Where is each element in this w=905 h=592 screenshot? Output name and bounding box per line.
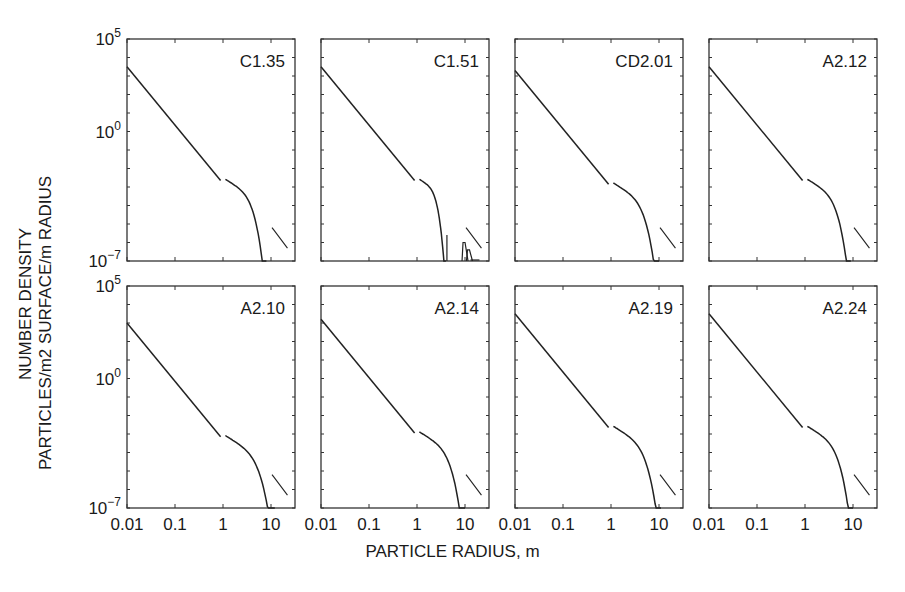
panel-frame [127, 286, 295, 508]
panel-a2-12: A2.12 [709, 39, 877, 261]
rolloff-curve [225, 436, 274, 509]
panel-label: A2.19 [629, 299, 673, 318]
small-multiples-plot: C1.3510510010−7C1.51CD2.01A2.12A2.101051… [0, 0, 905, 592]
figure: NUMBER DENSITY PARTICLES/m2 SURFACE/m RA… [0, 0, 905, 592]
x-tick-label: 0.1 [163, 515, 187, 534]
panel-frame [321, 286, 489, 508]
power-law-curve [709, 67, 803, 181]
panel-label: A2.14 [435, 299, 479, 318]
panel-c1-35: C1.3510510010−7 [88, 26, 295, 271]
power-law-curve [321, 67, 415, 181]
y-tick-label: 105 [95, 26, 121, 49]
power-law-curve [709, 314, 803, 428]
power-law-curve [127, 67, 221, 181]
panel-label: C1.35 [240, 52, 285, 71]
reference-line [272, 475, 287, 495]
rolloff-curve [419, 179, 446, 261]
panel-label: CD2.01 [615, 52, 673, 71]
reference-line [854, 475, 869, 495]
y-tick-label: 10−7 [88, 248, 121, 271]
x-tick-label: 1 [800, 515, 809, 534]
panel-label: C1.51 [434, 52, 479, 71]
panel-a2-14: A2.140.010.1110 [304, 286, 489, 534]
reference-line [272, 228, 287, 248]
x-tick-label: 0.1 [745, 515, 769, 534]
x-tick-label: 10 [262, 515, 281, 534]
reference-line [466, 228, 481, 248]
x-tick-label: 0.01 [498, 515, 531, 534]
panel-c1-51: C1.51 [321, 39, 489, 261]
x-tick-label: 0.01 [692, 515, 725, 534]
y-tick-label: 100 [95, 366, 121, 389]
panel-cd2-01: CD2.01 [515, 39, 683, 261]
rolloff-curve [807, 179, 850, 261]
power-law-curve [515, 314, 609, 428]
rolloff-curve [807, 426, 853, 508]
panel-label: A2.24 [823, 299, 867, 318]
reference-line [854, 228, 869, 248]
reference-line [660, 228, 675, 248]
panel-a2-24: A2.240.010.1110 [692, 286, 877, 534]
y-tick-label: 105 [95, 273, 121, 296]
x-tick-label: 0.1 [551, 515, 575, 534]
x-tick-label: 0.01 [110, 515, 143, 534]
x-tick-label: 10 [844, 515, 863, 534]
panel-frame [321, 39, 489, 261]
panel-frame [515, 286, 683, 508]
x-tick-label: 1 [606, 515, 615, 534]
power-law-curve [515, 70, 609, 184]
rolloff-curve [613, 426, 661, 508]
rolloff-curve [613, 183, 659, 261]
x-tick-label: 0.1 [357, 515, 381, 534]
panel-label: A2.12 [823, 52, 867, 71]
reference-line [660, 475, 675, 495]
x-tick-label: 0.01 [304, 515, 337, 534]
panel-frame [515, 39, 683, 261]
panel-a2-19: A2.190.010.1110 [498, 286, 683, 534]
panel-frame [709, 286, 877, 508]
power-law-curve [321, 319, 415, 433]
x-tick-label: 1 [218, 515, 227, 534]
rolloff-curve [225, 179, 266, 261]
reference-line [466, 475, 481, 495]
rolloff-curve [419, 432, 465, 508]
y-tick-label: 100 [95, 119, 121, 142]
panel-label: A2.10 [241, 299, 285, 318]
power-law-curve [127, 323, 221, 437]
panel-frame [127, 39, 295, 261]
panel-a2-10: A2.1010510010−70.010.1110 [88, 273, 295, 534]
x-tick-label: 1 [412, 515, 421, 534]
x-tick-label: 10 [456, 515, 475, 534]
x-tick-label: 10 [650, 515, 669, 534]
panel-frame [709, 39, 877, 261]
